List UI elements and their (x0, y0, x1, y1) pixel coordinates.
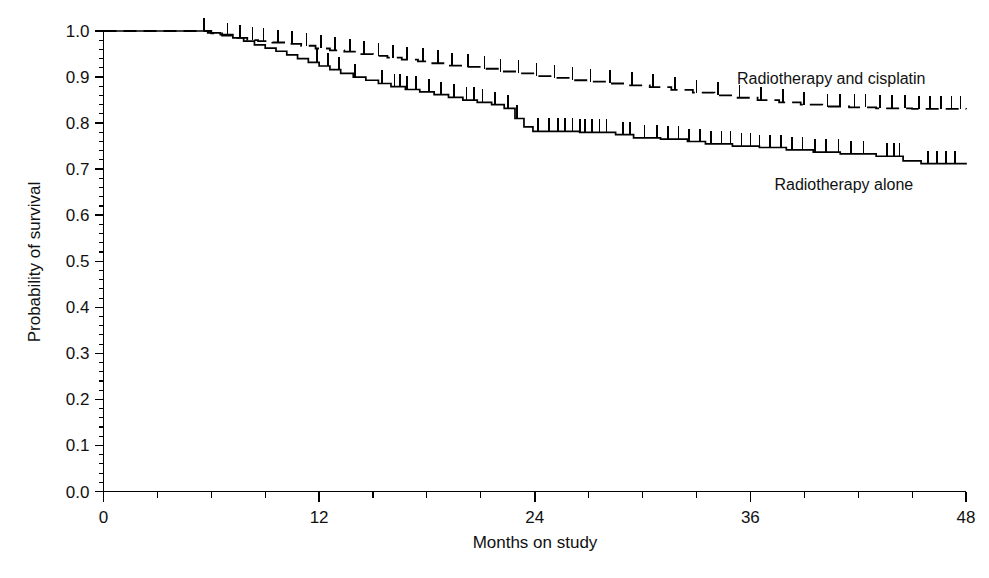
y-tick-label: 0.9 (66, 68, 90, 87)
x-tick-label: 36 (741, 508, 760, 527)
y-tick-label: 0.8 (66, 114, 90, 133)
x-tick-label: 12 (310, 508, 329, 527)
survival-curves (104, 18, 967, 165)
censor-marks-2 (317, 49, 955, 163)
y-axis-title: Probability of survival (25, 182, 44, 343)
y-tick-label: 0.6 (66, 206, 90, 225)
x-tick-label: 0 (99, 508, 108, 527)
x-tick-label: 24 (525, 508, 544, 527)
x-axis-tick-labels: 012243648 (99, 508, 976, 527)
y-tick-label: 0.5 (66, 252, 90, 271)
curve-label-2: Radiotherapy alone (774, 176, 913, 193)
y-tick-label: 0.0 (66, 483, 90, 502)
survival-chart-figure: 0.00.10.20.30.40.50.60.70.80.91.0 Probab… (0, 0, 989, 578)
y-tick-label: 0.2 (66, 390, 90, 409)
curve-annotations: Radiotherapy and cisplatinRadiotherapy a… (737, 70, 926, 193)
series-2 (104, 31, 967, 165)
series-1 (104, 18, 967, 109)
y-tick-label: 0.4 (66, 298, 90, 317)
x-axis-major-ticks (104, 492, 967, 502)
y-tick-label: 0.3 (66, 344, 90, 363)
x-tick-label: 48 (957, 508, 976, 527)
y-axis: 0.00.10.20.30.40.50.60.70.80.91.0 Probab… (25, 22, 104, 502)
curve-line-2 (104, 31, 967, 165)
curve-label-1: Radiotherapy and cisplatin (737, 70, 926, 87)
x-axis-title: Months on study (473, 533, 598, 552)
y-axis-major-ticks (95, 31, 104, 492)
y-tick-label: 1.0 (66, 22, 90, 41)
y-axis-tick-labels: 0.00.10.20.30.40.50.60.70.80.91.0 (66, 22, 90, 502)
kaplan-meier-plot: 0.00.10.20.30.40.50.60.70.80.91.0 Probab… (0, 0, 989, 578)
censor-marks-1 (204, 18, 960, 109)
y-tick-label: 0.7 (66, 160, 90, 179)
x-axis: 012243648 Months on study (99, 492, 976, 553)
y-tick-label: 0.1 (66, 436, 90, 455)
